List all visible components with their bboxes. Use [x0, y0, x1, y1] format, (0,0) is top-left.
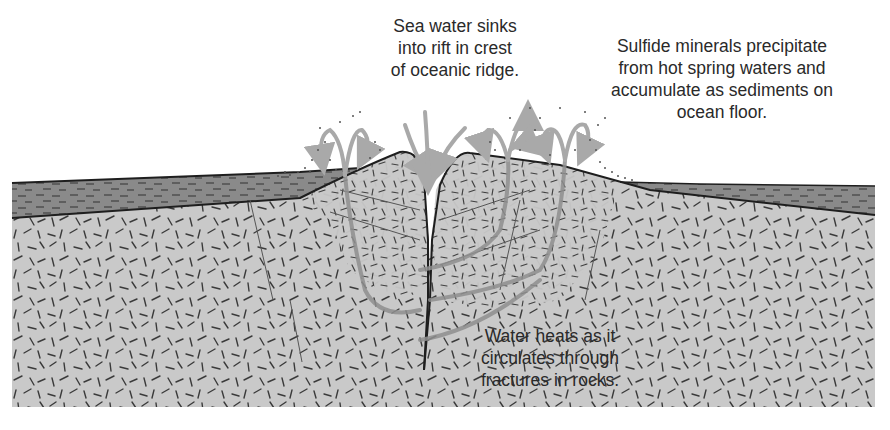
label-line: into rift in crest	[340, 37, 570, 59]
label-line: of oceanic ridge.	[340, 59, 570, 81]
label-line: Sulfide minerals precipitate	[572, 35, 872, 57]
label-line: accumulate as sediments on	[572, 79, 872, 101]
label-water-heats: Water heats as it circulates through fra…	[440, 325, 660, 391]
label-line: Water heats as it	[440, 325, 660, 347]
label-line: fractures in rocks.	[440, 369, 660, 391]
label-line: circulates through	[440, 347, 660, 369]
label-line: ocean floor.	[572, 101, 872, 123]
label-sulfide-minerals: Sulfide minerals precipitate from hot sp…	[572, 35, 872, 123]
label-line: from hot spring waters and	[572, 57, 872, 79]
label-sea-water-sinks: Sea water sinks into rift in crest of oc…	[340, 15, 570, 81]
label-line: Sea water sinks	[340, 15, 570, 37]
